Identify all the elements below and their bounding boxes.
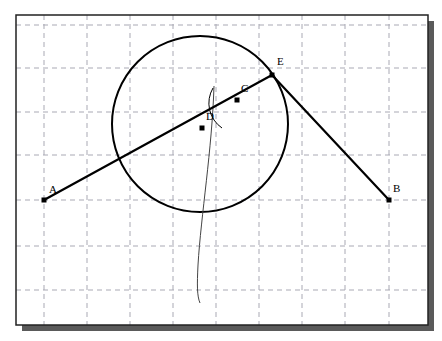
frame-background bbox=[16, 15, 428, 325]
point-label-d: D bbox=[206, 110, 214, 122]
point-marker-d[interactable] bbox=[200, 126, 205, 131]
diagram-canvas: ABCDE bbox=[0, 0, 442, 341]
point-label-c: C bbox=[241, 82, 248, 94]
point-marker-a[interactable] bbox=[42, 198, 47, 203]
geometry-figure: ABCDE bbox=[0, 0, 442, 341]
point-marker-b[interactable] bbox=[387, 198, 392, 203]
point-label-e: E bbox=[277, 55, 284, 67]
point-marker-c[interactable] bbox=[235, 98, 240, 103]
point-marker-e[interactable] bbox=[270, 73, 275, 78]
point-label-b: B bbox=[393, 182, 400, 194]
point-label-a: A bbox=[49, 183, 57, 195]
